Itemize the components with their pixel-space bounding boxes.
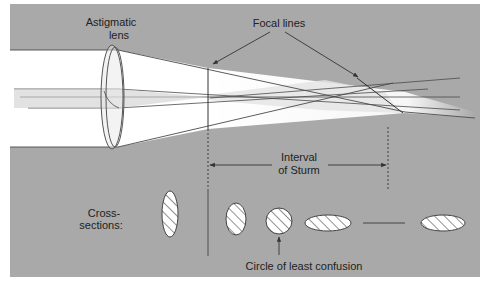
circle-least-confusion-label: Circle of least confusion (246, 260, 363, 272)
cross-sections-label-line2: sections: (79, 219, 122, 231)
cross-section-vertical-ellipse (162, 191, 178, 237)
lens-label-line1: Astigmatic (86, 16, 137, 28)
cross-section-horizontal-ellipse-2 (421, 215, 465, 231)
interval-label-line2: of Sturm (278, 164, 320, 176)
cross-section-circle-least-confusion (266, 208, 292, 234)
cross-section-small-vertical-ellipse (226, 203, 246, 235)
focal-lines-label: Focal lines (253, 17, 306, 29)
cross-sections-label-line1: Cross- (88, 207, 121, 219)
lens-label-line2: lens (109, 29, 130, 41)
astigmatism-diagram: Astigmatic lens Focal lines Interval of … (0, 0, 491, 287)
interval-label-line1: Interval (281, 151, 317, 163)
cross-section-horizontal-ellipse (305, 215, 351, 231)
